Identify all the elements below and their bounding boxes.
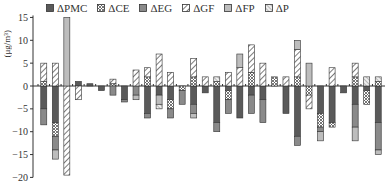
bar-segment — [214, 81, 220, 86]
bar-segment — [225, 100, 231, 114]
y-tick-label: 15 — [18, 12, 28, 23]
bar-segment — [225, 86, 231, 91]
bar-segment — [352, 63, 358, 77]
legend-label: ΔP — [276, 2, 289, 14]
bar-segment — [191, 104, 197, 113]
bar-segment — [145, 86, 151, 113]
bar-segment — [260, 63, 266, 86]
bar-segment — [64, 86, 70, 175]
bar-segment — [145, 113, 151, 118]
bar-segment — [52, 136, 58, 150]
bar-segment — [145, 68, 151, 77]
bar-segment — [329, 68, 335, 86]
bar-segment — [248, 72, 254, 86]
y-tick-label: −20 — [12, 172, 28, 183]
bar-segment — [329, 123, 335, 128]
bar-segment — [168, 100, 174, 109]
legend-swatch-icon — [224, 4, 232, 12]
bar-segment — [306, 63, 312, 86]
bar-segment — [179, 86, 185, 91]
bar-segment — [52, 123, 58, 137]
bar-segment — [41, 86, 47, 109]
bar-segment — [110, 79, 116, 84]
bar-segment — [191, 113, 197, 118]
legend-item: ΔPMC — [46, 2, 87, 14]
bar-segment — [341, 86, 347, 93]
bar-segment — [248, 95, 254, 113]
bar-segment — [214, 86, 220, 123]
bar-segment — [318, 86, 324, 113]
bar-segment — [364, 77, 370, 86]
bar-segment — [133, 86, 139, 95]
bar-segment — [191, 86, 197, 104]
bar-segment — [375, 81, 381, 86]
bar-segment — [75, 86, 81, 100]
bar-segment — [283, 77, 289, 86]
bar-segment — [52, 63, 58, 86]
bar-segment — [133, 70, 139, 86]
bar-segment — [110, 86, 116, 95]
legend-swatch-icon — [46, 4, 54, 12]
bar-segment — [260, 100, 266, 123]
bar-segment — [87, 84, 93, 86]
bar-segment — [168, 72, 174, 86]
bar-segment — [375, 77, 381, 82]
plot-area: 151050−5−10−15−20 — [0, 0, 388, 183]
bar-segment — [41, 109, 47, 125]
bar-segment — [248, 86, 254, 95]
bar-segment — [214, 77, 220, 82]
bar-segment — [98, 86, 104, 91]
legend-swatch-icon — [139, 4, 147, 12]
bar-segment — [352, 86, 358, 104]
bar-segment — [41, 63, 47, 81]
legend-swatch-icon — [265, 4, 273, 12]
bar-segment — [306, 95, 312, 109]
y-tick-label: 5 — [23, 58, 28, 69]
bar-segment — [248, 45, 254, 72]
legend: ΔPMC ΔCE ΔEG ΔGF ΔFP ΔP — [46, 2, 289, 14]
bar-segment — [202, 77, 208, 86]
bar-segment — [237, 54, 243, 68]
bar-segment — [156, 86, 162, 95]
bar-segment — [122, 86, 128, 100]
bar-segment — [318, 113, 324, 127]
bar-segment — [225, 72, 231, 86]
bar-segment — [295, 49, 301, 76]
bar-segment — [283, 86, 289, 113]
bar-segment — [364, 91, 370, 105]
legend-item: ΔEG — [139, 2, 172, 14]
bar-segment — [52, 86, 58, 123]
bar-segment — [52, 150, 58, 159]
bar-segment — [191, 77, 197, 86]
bar-segment — [352, 77, 358, 86]
y-tick-label: −10 — [12, 126, 28, 137]
bar-segment — [122, 100, 128, 102]
legend-item: ΔCE — [97, 2, 129, 14]
bar-segment — [352, 104, 358, 127]
legend-label: ΔPMC — [57, 2, 87, 14]
bar-segment — [202, 86, 208, 93]
legend-label: ΔGF — [193, 2, 214, 14]
bar-segment — [156, 95, 162, 104]
bar-segment — [318, 127, 324, 132]
bar-segment — [168, 86, 174, 100]
bar-segment — [75, 81, 81, 86]
stacked-bar-chart: (μg/m³) ΔPMC ΔCE ΔEG ΔGF — [0, 0, 388, 183]
y-tick-label: 0 — [23, 81, 28, 92]
y-tick-label: −5 — [17, 103, 28, 114]
bar-segment — [295, 77, 301, 86]
bar-segment — [375, 150, 381, 155]
bar-segment — [260, 86, 266, 100]
legend-item: ΔP — [265, 2, 289, 14]
bar-segment — [295, 136, 301, 145]
bar-segment — [295, 40, 301, 49]
bar-segment — [295, 86, 301, 136]
legend-swatch-icon — [97, 4, 105, 12]
bar-segment — [271, 77, 277, 86]
legend-swatch-icon — [182, 4, 190, 12]
bar-segment — [237, 86, 243, 118]
y-tick-label: 10 — [18, 35, 28, 46]
bar-segment — [329, 86, 335, 123]
legend-item: ΔFP — [224, 2, 254, 14]
bar-segment — [318, 132, 324, 141]
